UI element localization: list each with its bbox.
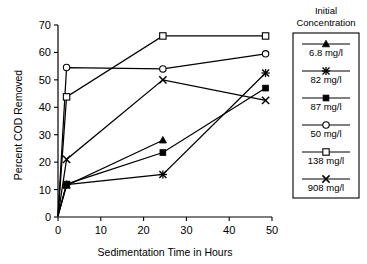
- legend-title-line1: Initial: [315, 5, 337, 16]
- legend-label: 908 mg/l: [308, 182, 344, 193]
- data-point-2: [160, 33, 166, 39]
- legend-label: 87 mg/l: [310, 101, 341, 112]
- x-tick-label-40: 40: [223, 224, 235, 236]
- x-tick-label-20: 20: [137, 224, 149, 236]
- y-tick-label-40: 40: [39, 101, 51, 113]
- data-series-group: [58, 33, 270, 216]
- y-tick-label-50: 50: [39, 74, 51, 86]
- legend-item-138-mg-l[interactable]: 138 mg/l: [302, 149, 350, 166]
- legend: Initial Concentration 6.8 mg/l82 mg/l87 …: [293, 5, 359, 198]
- legend-item-82-mg-l[interactable]: 82 mg/l: [302, 67, 350, 85]
- data-point-3: [261, 69, 269, 77]
- x-axis-title: Sedimentation Time in Hours: [98, 246, 233, 258]
- legend-label: 50 mg/l: [310, 128, 341, 139]
- cod-removal-line-chart: 010203040506070 01020304050 Sedimentatio…: [0, 0, 367, 264]
- data-point-2: [159, 170, 167, 178]
- y-tick-label-20: 20: [39, 156, 51, 168]
- data-point-3: [262, 51, 268, 57]
- legend-label: 6.8 mg/l: [309, 47, 343, 58]
- y-tick-label-10: 10: [39, 184, 51, 196]
- legend-item-6.8-mg-l[interactable]: 6.8 mg/l: [302, 40, 350, 58]
- legend-item-50-mg-l[interactable]: 50 mg/l: [302, 122, 350, 139]
- legend-label: 82 mg/l: [310, 74, 341, 85]
- axes-group: 010203040506070 01020304050: [39, 19, 278, 236]
- series-50-mg-l: [58, 51, 269, 216]
- series-908-mg-l: [58, 76, 269, 215]
- series-line: [58, 140, 163, 215]
- x-tick-label-50: 50: [266, 224, 278, 236]
- legend-entries: 6.8 mg/l82 mg/l87 mg/l50 mg/l138 mg/l908…: [302, 40, 350, 193]
- data-point-2: [160, 150, 166, 156]
- x-axis-tick-labels: 01020304050: [55, 224, 278, 236]
- legend-item-908-mg-l[interactable]: 908 mg/l: [302, 175, 350, 193]
- y-tick-label-0: 0: [45, 211, 51, 223]
- series-line: [58, 80, 266, 216]
- legend-title-line2: Concentration: [296, 17, 355, 28]
- data-point-1: [63, 64, 69, 70]
- data-point-3: [262, 33, 268, 39]
- x-tick-label-30: 30: [180, 224, 192, 236]
- data-point-3: [263, 85, 269, 91]
- series-138-mg-l: [58, 33, 269, 216]
- y-axis-tick-labels: 010203040506070: [39, 19, 51, 223]
- legend-item-87-mg-l[interactable]: 87 mg/l: [302, 95, 350, 112]
- x-tick-label-0: 0: [55, 224, 61, 236]
- y-tick-label-60: 60: [39, 46, 51, 58]
- y-axis-title: Percent COD Removed: [12, 70, 24, 180]
- y-tick-label-30: 30: [39, 129, 51, 141]
- series-87-mg-l: [58, 85, 268, 215]
- data-point-1: [63, 94, 69, 100]
- x-tick-label-10: 10: [95, 224, 107, 236]
- data-point-1: [64, 181, 70, 187]
- series-line: [58, 36, 266, 216]
- chart-figure: 010203040506070 01020304050 Sedimentatio…: [0, 0, 367, 264]
- data-point-2: [159, 136, 166, 143]
- y-tick-label-70: 70: [39, 19, 51, 31]
- x-axis-ticks: [58, 217, 272, 221]
- legend-label: 138 mg/l: [308, 155, 344, 166]
- data-point-2: [160, 66, 166, 72]
